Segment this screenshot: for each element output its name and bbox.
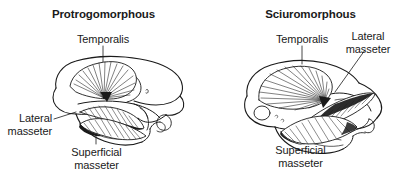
label-superficial-masseter-sciuromorphous: Superficial masseter [258, 144, 343, 169]
panel-sciuromorphous: Sciuromorphous [207, 0, 414, 181]
label-lateral-masseter-line1: Lateral [332, 30, 404, 43]
label-lateral-masseter-line2: masseter [332, 43, 404, 56]
figure-rodent-skull-musculature: Protrogomorphous [0, 0, 414, 181]
label-superficial-masseter-line1: Superficial [258, 144, 343, 157]
label-superficial-masseter-line1: Superficial [54, 146, 139, 159]
label-lateral-masseter-protrogomorphous: Lateral masseter [0, 112, 52, 137]
label-lateral-masseter-line1: Lateral [0, 112, 52, 125]
panel-protrogomorphous: Protrogomorphous [0, 0, 207, 181]
label-lateral-masseter-sciuromorphous: Lateral masseter [332, 30, 404, 55]
label-superficial-masseter-line2: masseter [54, 159, 139, 172]
label-lateral-masseter-line2: masseter [0, 125, 52, 138]
label-superficial-masseter-line2: masseter [258, 157, 343, 170]
label-superficial-masseter-protrogomorphous: Superficial masseter [54, 146, 139, 171]
label-temporalis-protrogomorphous: Temporalis [63, 33, 143, 46]
label-temporalis-sciuromorphous: Temporalis [262, 33, 342, 46]
